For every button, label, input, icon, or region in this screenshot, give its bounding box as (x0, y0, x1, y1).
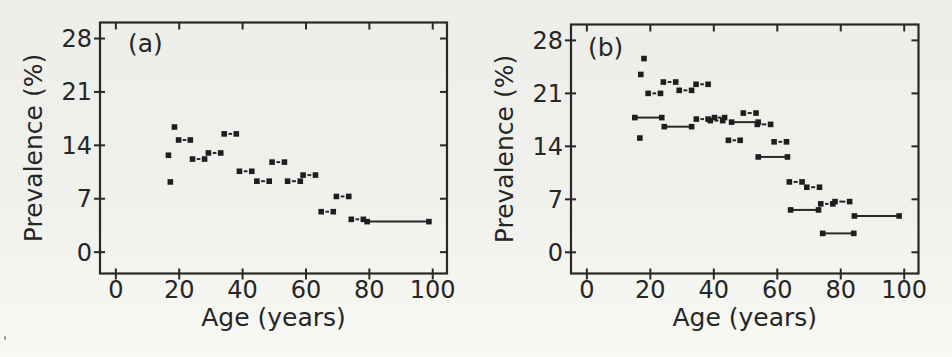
data-point-marker (832, 199, 838, 205)
y-tick-label: 14 (532, 133, 563, 161)
data-point-marker (641, 56, 647, 62)
data-point-marker (799, 179, 805, 185)
y-tick-label: 0 (548, 239, 563, 267)
data-point-marker (771, 139, 777, 145)
data-point-marker (816, 207, 822, 213)
data-point-marker (712, 115, 718, 121)
data-point-marker (632, 115, 638, 121)
data-point-marker (661, 79, 667, 85)
data-point-marker (729, 119, 735, 125)
y-tick-label: 28 (532, 27, 563, 55)
data-point-marker (726, 137, 732, 143)
data-point-marker (820, 231, 826, 237)
x-tick-label: 0 (579, 276, 594, 304)
data-point-marker (851, 231, 857, 237)
scan-speck (4, 336, 6, 340)
data-point-marker (645, 91, 651, 97)
data-point-marker (755, 154, 761, 160)
data-point-marker (659, 115, 665, 121)
x-tick-label: 60 (762, 276, 793, 304)
data-point-marker (755, 119, 761, 125)
data-point-marker (896, 213, 902, 219)
data-point-marker (693, 81, 699, 87)
data-point-marker (694, 116, 700, 122)
data-point-marker (737, 137, 743, 143)
data-point-marker (676, 88, 682, 94)
data-point-marker (804, 184, 810, 190)
figure-canvas: 02040608010007142128Age (years)Prevalenc… (0, 0, 952, 357)
data-point-marker (637, 135, 643, 141)
data-point-marker (753, 110, 759, 116)
x-tick-label: 100 (881, 276, 927, 304)
y-axis-label: Prevalence (%) (490, 55, 519, 243)
data-point-marker (741, 110, 747, 116)
x-tick-label: 80 (825, 276, 856, 304)
data-point-marker (817, 184, 823, 190)
x-axis-label: Age (years) (672, 303, 817, 332)
y-tick-label: 21 (532, 80, 563, 108)
data-point-marker (722, 115, 728, 121)
data-point-marker (638, 72, 644, 78)
data-point-marker (788, 207, 794, 213)
data-point-marker (658, 91, 664, 97)
data-point-marker (768, 122, 774, 128)
data-point-marker (689, 124, 695, 130)
data-point-marker (673, 79, 679, 85)
x-tick-label: 40 (699, 276, 730, 304)
data-point-marker (818, 201, 824, 207)
data-point-marker (705, 81, 711, 87)
data-point-marker (785, 154, 791, 160)
data-point-marker (847, 199, 853, 205)
x-tick-label: 20 (635, 276, 666, 304)
data-point-marker (689, 88, 695, 94)
panel-b-chart: 02040608010007142128Age (years)Prevalenc… (0, 0, 952, 357)
data-point-marker (852, 213, 858, 219)
panel-label: (b) (588, 33, 623, 62)
data-point-marker (784, 139, 790, 145)
data-point-marker (787, 179, 793, 185)
y-tick-label: 7 (548, 186, 563, 214)
data-point-marker (662, 124, 668, 130)
axes-spines (571, 25, 919, 274)
